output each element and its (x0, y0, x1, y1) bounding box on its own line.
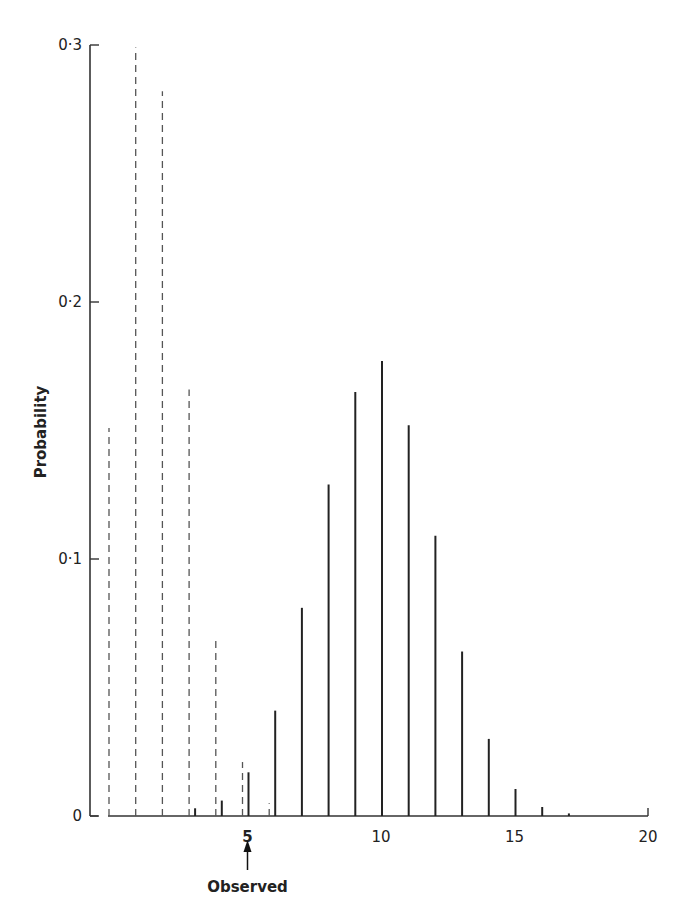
axis-labels: 00·10·20·35101520ObservedProbability (32, 36, 658, 896)
x-tick-label: 20 (638, 828, 657, 846)
y-tick-label: 0·1 (58, 550, 82, 568)
axes (90, 45, 648, 816)
bars (109, 48, 569, 816)
y-axis-title: Probability (32, 385, 50, 478)
y-tick-label: 0·3 (58, 36, 82, 54)
x-tick-label: 15 (505, 828, 524, 846)
y-tick-label: 0 (72, 807, 82, 825)
y-tick-label: 0·2 (58, 293, 82, 311)
x-tick-label: 10 (371, 828, 390, 846)
probability-chart: 00·10·20·35101520ObservedProbability (0, 0, 689, 917)
observed-label: Observed (207, 878, 288, 896)
